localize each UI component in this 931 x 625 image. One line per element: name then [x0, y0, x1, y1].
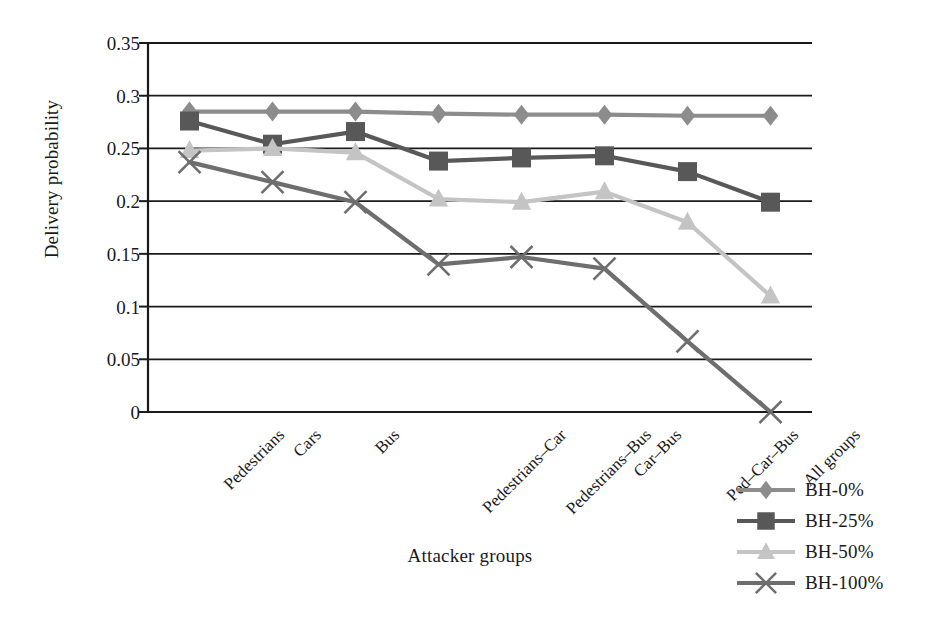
- marker-diamond: [763, 106, 779, 126]
- legend-label: BH-25%: [805, 510, 874, 532]
- legend: BH-0%BH-25%BH-50%BH-100%: [735, 474, 925, 598]
- series-bh-25: [180, 112, 780, 212]
- marker-diamond: [431, 104, 447, 124]
- marker-square: [595, 146, 614, 165]
- marker-diamond: [514, 105, 530, 125]
- marker-square: [180, 112, 199, 131]
- marker-diamond: [265, 102, 281, 122]
- marker-cross: [677, 330, 699, 352]
- legend-label: BH-100%: [805, 572, 883, 594]
- marker-square: [678, 162, 697, 181]
- axis-lines: [139, 43, 148, 412]
- legend-label: BH-50%: [805, 541, 874, 563]
- legend-swatch-square-icon: [735, 508, 797, 534]
- legend-item[interactable]: BH-0%: [735, 474, 925, 505]
- gridlines: [148, 43, 812, 412]
- marker-square: [346, 122, 365, 141]
- legend-swatch-cross-icon: [735, 570, 797, 596]
- legend-label: BH-0%: [805, 479, 864, 501]
- legend-item[interactable]: BH-100%: [735, 567, 925, 598]
- marker-square: [761, 193, 780, 212]
- series-bh-0: [182, 102, 779, 126]
- marker-square: [757, 512, 774, 529]
- marker-diamond: [348, 102, 364, 122]
- legend-swatch-diamond-icon: [735, 477, 797, 503]
- legend-swatch-triangle-icon: [735, 539, 797, 565]
- marker-diamond: [597, 105, 613, 125]
- marker-square: [429, 152, 448, 171]
- series-bh-100: [179, 151, 782, 423]
- marker-triangle: [595, 181, 614, 199]
- series-line: [190, 121, 771, 202]
- marker-diamond: [759, 480, 773, 498]
- legend-item[interactable]: BH-25%: [735, 505, 925, 536]
- marker-square: [512, 148, 531, 167]
- legend-item[interactable]: BH-50%: [735, 536, 925, 567]
- marker-diamond: [680, 106, 696, 126]
- chart-figure: Delivery probability Attacker groups 00.…: [0, 0, 931, 625]
